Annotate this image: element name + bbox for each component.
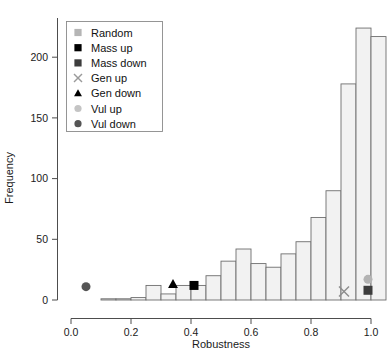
y-tick-label: 150 (30, 112, 48, 124)
y-tick-label: 0 (42, 294, 48, 306)
histogram-bar (176, 285, 191, 300)
annotation-marker-mass-down (364, 286, 373, 295)
histogram-bar (251, 264, 266, 300)
x-tick-label: 0.2 (124, 326, 139, 338)
legend-label-random: Random (91, 27, 133, 39)
y-axis-ticks: 050100150200 (30, 51, 57, 306)
legend-label-vul-down: Vul down (91, 118, 136, 130)
x-tick-label: 1.0 (364, 326, 379, 338)
legend: RandomMass upMass downGen upGen downVul … (67, 22, 163, 132)
x-tick-label: 0.4 (184, 326, 199, 338)
histogram-bar (266, 267, 281, 300)
y-tick-label: 100 (30, 172, 48, 184)
histogram-bar (311, 217, 326, 300)
y-axis: 050100150200 Frequency (3, 18, 58, 306)
legend-label-gen-up: Gen up (91, 72, 127, 84)
histogram-bar (281, 254, 296, 300)
legend-marker-mass-down (74, 59, 81, 66)
histogram-bar (371, 37, 386, 300)
x-axis-title: Robustness (192, 338, 251, 350)
histogram-bar (236, 249, 251, 300)
histogram-bar (326, 191, 341, 300)
histogram-bar (131, 298, 146, 300)
chart-canvas: 050100150200 Frequency 0.00.20.40.60.81.… (0, 0, 390, 359)
legend-label-gen-down: Gen down (91, 87, 141, 99)
histogram-chart: 050100150200 Frequency 0.00.20.40.60.81.… (0, 0, 390, 359)
legend-marker-vul-up (74, 105, 81, 112)
annotation-marker-vul-down (82, 282, 91, 291)
x-tick-label: 0.8 (304, 326, 319, 338)
legend-label-vul-up: Vul up (91, 103, 122, 115)
annotation-marker-mass-up (190, 281, 199, 290)
legend-marker-vul-down (74, 120, 81, 127)
histogram-bar (341, 84, 356, 300)
histogram-bar (296, 242, 311, 300)
legend-label-mass-down: Mass down (91, 57, 147, 69)
x-axis: 0.00.20.40.60.81.0 Robustness (64, 319, 379, 351)
histogram-bar (356, 28, 371, 300)
histogram-bar (146, 285, 161, 300)
histogram-bar (101, 299, 116, 300)
legend-marker-mass-up (74, 44, 81, 51)
histogram-bar (221, 261, 236, 300)
legend-label-mass-up: Mass up (91, 42, 133, 54)
annotation-marker-gen-down (168, 279, 178, 288)
x-tick-label: 0.0 (64, 326, 79, 338)
y-tick-label: 200 (30, 51, 48, 63)
histogram-bar (206, 276, 221, 300)
histogram-bar (161, 294, 176, 300)
y-tick-label: 50 (36, 233, 48, 245)
annotation-marker-vul-up (364, 275, 373, 284)
histogram-bar (116, 299, 131, 300)
x-tick-label: 0.6 (244, 326, 259, 338)
x-axis-ticks: 0.00.20.40.60.81.0 (64, 319, 379, 339)
y-axis-title: Frequency (3, 152, 15, 204)
legend-marker-random (74, 29, 81, 36)
